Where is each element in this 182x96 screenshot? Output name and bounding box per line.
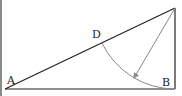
label-b: B: [162, 76, 170, 89]
hypotenuse-ac: [5, 8, 175, 89]
label-a: A: [6, 74, 16, 87]
triangle-diagram: A B D: [0, 0, 182, 96]
label-d: D: [92, 28, 101, 41]
radius-arrow: [134, 8, 175, 78]
diagram-frame: A B D: [0, 0, 182, 96]
